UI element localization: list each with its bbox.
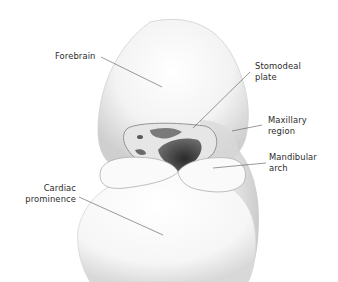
label-mandibular-arch: Mandibular arch [269, 152, 317, 173]
label-maxillary-region: Maxillary region [268, 115, 307, 136]
anatomical-illustration: Forebrain Stomodeal plate Maxillary regi… [0, 0, 338, 282]
embryo-face-drawing [0, 0, 338, 282]
small-pit-shape [137, 135, 143, 139]
label-forebrain: Forebrain [55, 51, 95, 62]
label-cardiac-prominence: Cardiac prominence [22, 183, 76, 204]
label-stomodeal-plate: Stomodeal plate [255, 61, 301, 82]
